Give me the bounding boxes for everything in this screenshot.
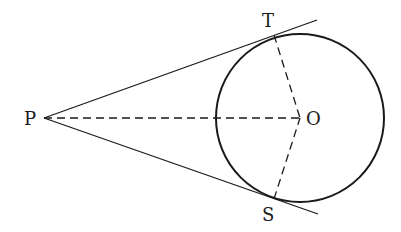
dashed-line-to	[274, 35, 300, 118]
label-s: S	[262, 204, 274, 225]
dashed-line-so	[274, 118, 300, 199]
label-o: O	[306, 108, 321, 129]
label-t: T	[262, 10, 274, 31]
tangent-line-ps	[44, 118, 318, 214]
tangent-diagram: P T O S	[0, 0, 401, 232]
tangent-line-pt	[44, 20, 317, 118]
label-p: P	[24, 108, 36, 129]
